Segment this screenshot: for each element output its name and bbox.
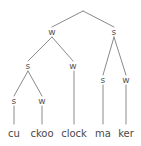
tree-edge: [52, 11, 83, 27]
tree-edge: [83, 11, 114, 27]
tree-node-label-n-w1: w: [48, 28, 56, 37]
tree-node-label-n-s2: s: [26, 62, 31, 71]
tree-leaf-leaf-ma: ma: [95, 129, 111, 139]
metrical-tree-diagram: wsswswsw cuckooclockmaker: [0, 0, 141, 146]
tree-edge: [52, 37, 73, 61]
tree-edge: [28, 37, 52, 61]
tree-node-label-n-s1: s: [112, 28, 117, 37]
tree-node-label-n-s3: s: [101, 76, 106, 85]
tree-leaf-leaf-clock: clock: [61, 129, 87, 139]
tree-leaf-leaf-cu: cu: [8, 129, 20, 139]
tree-node-label-n-w4: w: [38, 97, 46, 106]
tree-edge: [28, 71, 42, 96]
tree-edge: [103, 37, 114, 75]
tree-leaf-leaf-ckoo: ckoo: [30, 129, 53, 139]
tree-node-label-n-s4: s: [12, 97, 17, 106]
tree-edge: [14, 71, 28, 96]
tree-edge: [114, 37, 126, 75]
tree-leaf-leaf-ker: ker: [118, 129, 134, 139]
tree-node-label-n-w2: w: [69, 62, 77, 71]
tree-node-label-n-w3: w: [122, 76, 130, 85]
tree-edges-layer: [0, 0, 141, 146]
